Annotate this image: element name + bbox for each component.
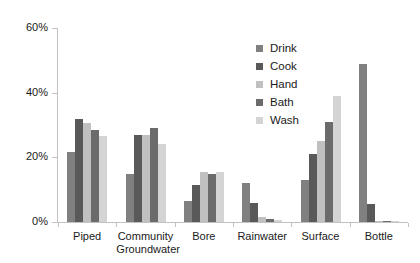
x-tick-mark	[233, 223, 234, 227]
chart-legend: DrinkCookHandBathWash	[256, 40, 299, 130]
x-tick-mark	[291, 223, 292, 227]
category-label-line: Surface	[291, 230, 349, 243]
legend-label: Drink	[270, 42, 297, 54]
category-label: Bore	[175, 230, 233, 243]
legend-label: Bath	[270, 96, 294, 108]
category-label-line: Bore	[175, 230, 233, 243]
bar-community-groundwater-cook	[134, 135, 142, 222]
bar-bore-hand	[200, 172, 208, 222]
bar-surface-wash	[333, 96, 341, 222]
bar-rainwater-drink	[242, 183, 250, 222]
bar-piped-hand	[83, 123, 91, 222]
category-label: Bottle	[350, 230, 408, 243]
bar-community-groundwater-bath	[150, 128, 158, 222]
legend-swatch-icon	[256, 99, 263, 106]
bar-rainwater-hand	[258, 217, 266, 222]
legend-item-hand: Hand	[256, 76, 299, 92]
bar-rainwater-bath	[266, 219, 274, 222]
y-tick-mark	[52, 157, 57, 158]
category-label-line: Groundwater	[116, 243, 174, 256]
bar-surface-drink	[301, 180, 309, 222]
bar-rainwater-cook	[250, 203, 258, 222]
bar-community-groundwater-drink	[126, 174, 134, 223]
category-label: Rainwater	[233, 230, 291, 243]
category-label-line: Rainwater	[233, 230, 291, 243]
y-tick-label: 40%	[26, 87, 48, 98]
legend-swatch-icon	[256, 45, 263, 52]
bar-surface-cook	[309, 154, 317, 222]
x-tick-mark	[116, 223, 117, 227]
category-label-line: Bottle	[350, 230, 408, 243]
bar-bore-drink	[184, 201, 192, 222]
legend-item-wash: Wash	[256, 112, 299, 128]
legend-label: Hand	[270, 78, 298, 90]
bar-bottle-wash	[391, 221, 399, 222]
y-tick-label: 0%	[32, 216, 48, 227]
legend-label: Wash	[270, 114, 299, 126]
bar-surface-hand	[317, 141, 325, 222]
y-tick-label: 20%	[26, 151, 48, 162]
legend-item-drink: Drink	[256, 40, 299, 56]
x-tick-mark	[175, 223, 176, 227]
bar-bottle-bath	[383, 221, 391, 222]
legend-item-cook: Cook	[256, 58, 299, 74]
bar-bore-bath	[208, 174, 216, 223]
bar-surface-bath	[325, 122, 333, 222]
legend-swatch-icon	[256, 63, 263, 70]
bar-bottle-cook	[367, 204, 375, 222]
x-tick-mark	[58, 223, 59, 227]
y-tick-mark	[52, 93, 57, 94]
y-tick-mark	[52, 28, 57, 29]
y-tick-mark	[52, 222, 57, 223]
bar-community-groundwater-wash	[158, 144, 166, 222]
bar-bottle-hand	[375, 221, 383, 222]
bar-community-groundwater-hand	[142, 135, 150, 222]
legend-label: Cook	[270, 60, 297, 72]
bar-bore-wash	[216, 172, 224, 222]
category-label: Piped	[58, 230, 116, 243]
plot-area	[58, 28, 408, 222]
legend-swatch-icon	[256, 81, 263, 88]
legend-item-bath: Bath	[256, 94, 299, 110]
category-label-line: Community	[116, 230, 174, 243]
category-label: CommunityGroundwater	[116, 230, 174, 255]
bar-piped-cook	[75, 119, 83, 222]
category-label: Surface	[291, 230, 349, 243]
x-tick-mark	[350, 223, 351, 227]
bar-chart: 0%20%40%60% PipedCommunityGroundwaterBor…	[0, 0, 420, 263]
legend-swatch-icon	[256, 117, 263, 124]
y-tick-label: 60%	[26, 22, 48, 33]
category-label-line: Piped	[58, 230, 116, 243]
bar-bottle-drink	[359, 64, 367, 222]
bar-rainwater-wash	[274, 220, 282, 222]
bar-piped-wash	[99, 136, 107, 222]
bar-piped-drink	[67, 152, 75, 222]
x-tick-mark	[408, 223, 409, 227]
bar-bore-cook	[192, 185, 200, 222]
bar-piped-bath	[91, 130, 99, 222]
